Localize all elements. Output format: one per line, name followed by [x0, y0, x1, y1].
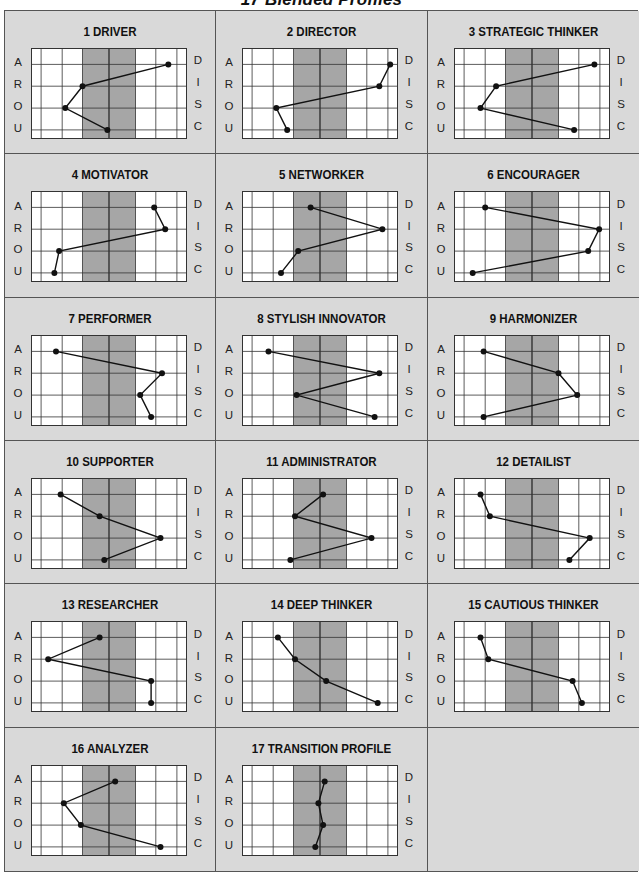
disc-chart: ADRIOSUC	[454, 48, 610, 139]
axis-label-right: C	[402, 407, 416, 419]
profile-title: 6 ENCOURAGER	[436, 168, 630, 182]
axis-label-left: U	[222, 552, 236, 564]
axis-label-right: C	[402, 693, 416, 705]
axis-label-right: I	[191, 506, 205, 518]
axis-label-left: R	[434, 652, 448, 664]
disc-chart: ADRIOSUC	[242, 621, 398, 712]
axis-label-right: S	[402, 528, 416, 540]
disc-chart: ADRIOSUC	[31, 48, 187, 139]
axis-label-right: D	[191, 771, 205, 783]
axis-label-left: R	[11, 795, 25, 807]
profile-title: 13 RESEARCHER	[13, 598, 206, 612]
axis-label-right: D	[614, 484, 628, 496]
disc-chart: ADRIOSUC	[454, 621, 610, 712]
axis-label-right: S	[614, 98, 628, 110]
profile-cell: 16 ANALYZERADRIOSUC	[5, 728, 216, 871]
disc-chart: ADRIOSUC	[242, 478, 398, 569]
profile-cell: 12 DETAILISTADRIOSUC	[428, 441, 639, 584]
axis-label-left: U	[11, 552, 25, 564]
disc-chart: ADRIOSUC	[454, 191, 610, 282]
profile-cell: 10 SUPPORTERADRIOSUC	[5, 441, 216, 584]
axis-label-right: C	[191, 550, 205, 562]
profile-title: 2 DIRECTOR	[224, 25, 418, 39]
disc-chart: ADRIOSUC	[31, 335, 187, 426]
axis-label-left: U	[222, 839, 236, 851]
axis-label-left: O	[434, 530, 448, 542]
profile-title: 16 ANALYZER	[13, 742, 206, 756]
axis-label-left: U	[222, 265, 236, 277]
profile-title: 10 SUPPORTER	[13, 455, 206, 469]
axis-label-left: U	[434, 552, 448, 564]
axis-label-right: I	[614, 650, 628, 662]
axis-label-left: O	[11, 817, 25, 829]
axis-label-right: I	[402, 220, 416, 232]
axis-label-right: I	[614, 506, 628, 518]
axis-label-left: O	[434, 243, 448, 255]
axis-label-right: S	[191, 385, 205, 397]
axis-label-right: S	[191, 671, 205, 683]
axis-label-left: R	[11, 508, 25, 520]
axis-label-right: C	[614, 407, 628, 419]
profile-cell: 14 DEEP THINKERADRIOSUC	[216, 584, 428, 727]
axis-label-right: I	[191, 793, 205, 805]
axis-label-right: I	[191, 650, 205, 662]
axis-label-right: D	[191, 198, 205, 210]
axis-label-left: U	[434, 122, 448, 134]
axis-label-left: U	[222, 695, 236, 707]
axis-label-right: S	[402, 385, 416, 397]
empty-cell	[428, 728, 639, 871]
axis-label-left: A	[222, 56, 236, 68]
axis-label-right: D	[614, 628, 628, 640]
axis-label-right: S	[191, 815, 205, 827]
axis-label-left: O	[11, 100, 25, 112]
axis-label-left: U	[11, 409, 25, 421]
axis-label-left: O	[434, 100, 448, 112]
disc-chart: ADRIOSUC	[242, 191, 398, 282]
axis-label-left: R	[222, 508, 236, 520]
axis-label-left: A	[434, 200, 448, 212]
axis-label-left: A	[11, 486, 25, 498]
disc-chart: ADRIOSUC	[454, 335, 610, 426]
profile-cell: 5 NETWORKERADRIOSUC	[216, 154, 428, 297]
axis-label-right: D	[402, 341, 416, 353]
axis-label-left: A	[222, 200, 236, 212]
profile-title: 9 HARMONIZER	[436, 312, 630, 326]
axis-label-right: S	[402, 815, 416, 827]
profiles-grid: 1 DRIVERADRIOSUC2 DIRECTORADRIOSUC3 STRA…	[4, 10, 638, 872]
axis-label-right: D	[191, 341, 205, 353]
disc-chart: ADRIOSUC	[31, 478, 187, 569]
axis-label-right: D	[191, 628, 205, 640]
profile-title: 11 ADMINISTRATOR	[224, 455, 418, 469]
axis-label-right: D	[614, 198, 628, 210]
axis-label-right: D	[402, 54, 416, 66]
axis-label-left: A	[11, 343, 25, 355]
axis-label-left: O	[222, 817, 236, 829]
profile-cell: 3 STRATEGIC THINKERADRIOSUC	[428, 11, 639, 154]
axis-label-left: R	[434, 222, 448, 234]
axis-label-left: U	[434, 695, 448, 707]
profile-title: 1 DRIVER	[13, 25, 206, 39]
axis-label-right: S	[402, 241, 416, 253]
axis-label-right: C	[191, 407, 205, 419]
axis-label-left: U	[11, 122, 25, 134]
axis-label-left: A	[11, 200, 25, 212]
disc-chart: ADRIOSUC	[242, 335, 398, 426]
axis-label-right: C	[191, 837, 205, 849]
axis-label-right: C	[402, 120, 416, 132]
axis-label-left: U	[11, 265, 25, 277]
disc-chart: ADRIOSUC	[31, 191, 187, 282]
profile-cell: 4 MOTIVATORADRIOSUC	[5, 154, 216, 297]
axis-label-right: D	[614, 54, 628, 66]
axis-label-left: O	[11, 243, 25, 255]
page-title: 17 Blended Profiles	[0, 0, 643, 10]
axis-label-right: C	[402, 263, 416, 275]
axis-label-left: U	[11, 695, 25, 707]
axis-label-right: S	[614, 528, 628, 540]
axis-label-left: R	[222, 78, 236, 90]
profile-title: 15 CAUTIOUS THINKER	[436, 598, 630, 612]
axis-label-right: I	[191, 220, 205, 232]
axis-label-right: I	[614, 220, 628, 232]
axis-label-right: S	[402, 671, 416, 683]
axis-label-right: S	[614, 385, 628, 397]
axis-label-left: R	[222, 365, 236, 377]
